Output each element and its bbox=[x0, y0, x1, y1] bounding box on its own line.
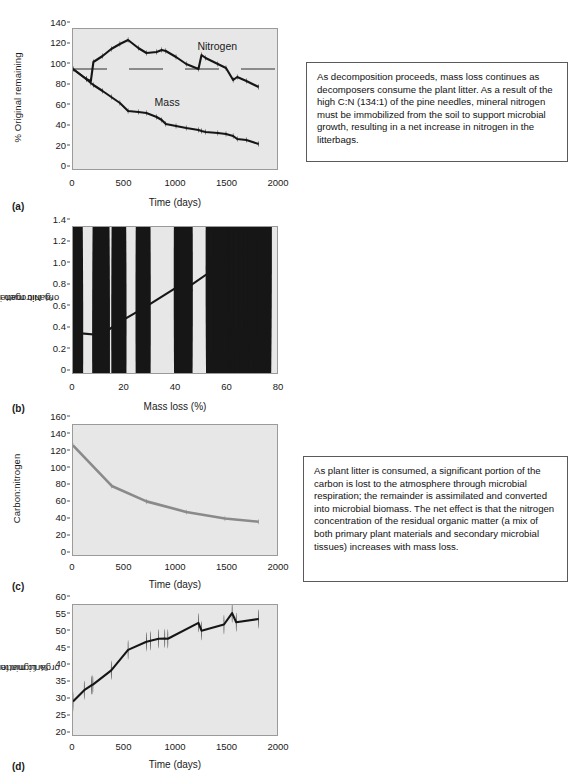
y-tick-labels-d: 20 25 30 35 40 45 50 55 60 bbox=[34, 604, 70, 736]
y-axis-label-b-text: % Nitrogen in residualorganic matter bbox=[0, 250, 34, 345]
y-tick: 20 bbox=[55, 529, 66, 540]
data-point bbox=[93, 82, 94, 88]
y-tick: 140 bbox=[50, 16, 66, 27]
data-point bbox=[120, 100, 121, 106]
data-point bbox=[168, 629, 169, 649]
data-point bbox=[150, 631, 151, 651]
y-tick: 160 bbox=[50, 410, 66, 421]
data-point bbox=[237, 136, 238, 142]
x-tick: 500 bbox=[116, 741, 132, 752]
data-point bbox=[201, 621, 202, 641]
data-point bbox=[111, 94, 112, 100]
data-point bbox=[257, 227, 272, 373]
x-axis-label-d: Time (days) bbox=[72, 759, 278, 770]
y-tick: 60 bbox=[55, 495, 66, 506]
data-point bbox=[186, 509, 187, 515]
data-point bbox=[120, 41, 121, 47]
y-axis-label-c-text: Carbon:nitrogen bbox=[12, 453, 23, 523]
x-tick: 80 bbox=[273, 381, 284, 392]
data-point bbox=[218, 130, 219, 136]
x-axis-label-a: Time (days) bbox=[72, 197, 278, 208]
x-tick-labels-c: 0 500 1000 1500 2000 bbox=[72, 560, 278, 574]
series-annotation-mass: Mass bbox=[155, 96, 180, 108]
y-tick: 100 bbox=[50, 57, 66, 68]
plot-area-b bbox=[72, 226, 278, 374]
data-point bbox=[178, 227, 193, 373]
y-tick: 25 bbox=[55, 709, 66, 720]
data-point bbox=[224, 615, 225, 635]
data-point bbox=[86, 76, 87, 82]
plot-area-d bbox=[72, 604, 278, 736]
data-point bbox=[226, 65, 227, 71]
data-point bbox=[128, 37, 129, 43]
data-point bbox=[198, 127, 199, 133]
data-point bbox=[84, 680, 85, 700]
panel-row-b: % Nitrogen in residualorganic matter 0 0… bbox=[0, 222, 579, 418]
y-axis-label-b: % Nitrogen in residualorganic matter bbox=[0, 222, 34, 374]
data-point bbox=[233, 133, 234, 139]
data-point bbox=[166, 121, 167, 127]
x-tick: 0 bbox=[69, 177, 74, 188]
x-tick: 500 bbox=[116, 561, 132, 572]
data-point bbox=[258, 519, 259, 525]
data-point bbox=[258, 609, 259, 629]
x-axis-label-c: Time (days) bbox=[72, 579, 278, 590]
series-markers-d bbox=[73, 605, 259, 711]
plot-area-a: Nitrogen Mass bbox=[72, 28, 278, 170]
data-point bbox=[198, 613, 199, 633]
y-tick: 20 bbox=[55, 726, 66, 737]
plot-svg-c bbox=[73, 425, 277, 555]
x-tick: 1000 bbox=[164, 177, 185, 188]
data-point bbox=[205, 55, 206, 61]
caption-box-a: As decomposition proceeds, mass loss con… bbox=[306, 62, 568, 162]
data-point bbox=[128, 108, 129, 114]
y-tick: 1.2 bbox=[53, 235, 66, 246]
data-point bbox=[232, 605, 233, 623]
data-point bbox=[164, 629, 165, 649]
chart-block-b: % Nitrogen in residualorganic matter 0 0… bbox=[0, 222, 292, 418]
data-point bbox=[156, 49, 157, 55]
x-tick: 2000 bbox=[267, 177, 288, 188]
y-tick: 1.0 bbox=[53, 256, 66, 267]
y-tick: 20 bbox=[55, 139, 66, 150]
y-tick: 40 bbox=[55, 119, 66, 130]
y-tick: 40 bbox=[55, 658, 66, 669]
y-tick: 80 bbox=[55, 478, 66, 489]
data-point bbox=[186, 61, 187, 67]
x-tick: 0 bbox=[69, 381, 74, 392]
y-tick: 55 bbox=[55, 607, 66, 618]
data-point bbox=[111, 661, 112, 681]
x-tick: 1500 bbox=[216, 561, 237, 572]
y-tick: 80 bbox=[55, 78, 66, 89]
y-tick: 140 bbox=[50, 427, 66, 438]
series-line-lignin bbox=[73, 613, 259, 701]
y-tick: 35 bbox=[55, 675, 66, 686]
panel-tag-c: (c) bbox=[12, 581, 24, 592]
x-tick: 1500 bbox=[216, 177, 237, 188]
y-axis-label-a: % Original remaining bbox=[0, 24, 34, 170]
y-tick: 0.4 bbox=[53, 321, 66, 332]
y-tick: 0 bbox=[61, 160, 66, 171]
caption-text-a: As decomposition proceeds, mass loss con… bbox=[317, 71, 558, 147]
x-tick-labels-a: 0 500 1000 1500 2000 bbox=[72, 176, 278, 190]
data-point bbox=[93, 675, 94, 695]
y-tick: 45 bbox=[55, 641, 66, 652]
panel-row-a: % Original remaining 0 20 40 60 80 100 1… bbox=[0, 24, 579, 214]
y-tick: 0 bbox=[61, 364, 66, 375]
data-point bbox=[128, 640, 129, 660]
y-tick: 1.4 bbox=[53, 213, 66, 224]
data-point bbox=[218, 61, 219, 67]
data-point bbox=[201, 128, 202, 134]
y-axis-label-d: % Lignin in residualorganic matter bbox=[0, 600, 34, 736]
y-tick: 60 bbox=[55, 590, 66, 601]
data-point bbox=[91, 676, 92, 696]
y-tick: 0.6 bbox=[53, 299, 66, 310]
data-point bbox=[161, 47, 162, 53]
x-tick: 1000 bbox=[164, 561, 185, 572]
series-annotation-nitrogen: Nitrogen bbox=[197, 40, 237, 52]
y-tick: 120 bbox=[50, 37, 66, 48]
x-axis-label-b: Mass loss (%) bbox=[72, 401, 278, 412]
data-point bbox=[237, 74, 238, 80]
y-tick-labels-a: 0 20 40 60 80 100 120 140 bbox=[34, 28, 70, 170]
x-tick: 60 bbox=[221, 381, 232, 392]
